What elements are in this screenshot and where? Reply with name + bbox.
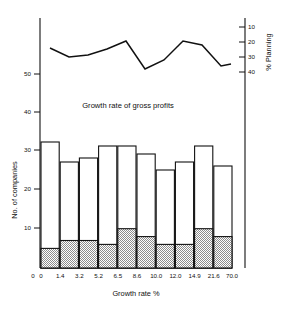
xtick-label-10: 70.0 [226,272,239,279]
planning-line-series [50,41,231,69]
ytick-label-0: 0 [31,272,35,279]
xtick-label-2: 3.2 [75,272,84,279]
ytick-label-50: 50 [24,70,31,77]
chart-title: Growth rate of gross profits [82,101,174,110]
x-axis-label: Growth rate % [112,289,160,298]
ytick-label-20: 20 [24,185,31,192]
ytick-label-30: 30 [24,146,31,153]
y2tick-label-20: 20 [248,38,255,45]
bar-shaded-3 [79,241,97,269]
ytick-label-40: 40 [24,108,31,115]
y-axis-right-label: % Planning [264,33,273,70]
xtick-label-3: 5.2 [94,272,103,279]
bar-shaded-2 [60,241,78,269]
bar-shaded-10 [214,237,232,268]
ytick-label-10: 10 [24,224,31,231]
xtick-label-9: 21.6 [208,272,221,279]
y2tick-label-10: 10 [248,23,255,30]
bar-shaded-5 [118,229,136,268]
bar-shaded-7 [156,244,174,268]
growth-rate-chart: 50 40 30 20 10 0 10 20 30 40 [0,0,283,313]
bar-shaded-1 [41,248,59,268]
left-axis-ticks: 50 40 30 20 10 0 [24,70,40,279]
x-axis-ticks: 0 1.4 3.2 5.2 6.5 8.6 10.0 12.0 14.9 21.… [39,272,238,279]
bar-shaded-9 [195,229,213,268]
right-axis-ticks: 10 20 30 40 [239,23,255,75]
y2tick-label-40: 40 [248,68,255,75]
xtick-label-7: 12.0 [169,272,182,279]
xtick-label-4: 6.5 [113,272,122,279]
y2tick-label-30: 30 [248,53,255,60]
bar-shaded-6 [137,237,155,268]
bar-shaded-4 [99,244,117,268]
xtick-label-5: 8.6 [133,272,142,279]
y-axis-left-label: No. of companies [10,161,19,219]
xtick-label-0: 0 [39,272,43,279]
xtick-label-8: 14.9 [189,272,202,279]
xtick-label-1: 1.4 [56,272,65,279]
bar-shaded-8 [175,244,193,268]
xtick-label-6: 10.0 [150,272,163,279]
chart-figure: 50 40 30 20 10 0 10 20 30 40 [0,0,283,313]
